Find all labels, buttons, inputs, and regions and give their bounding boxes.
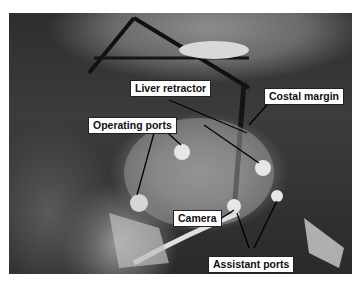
photo-scene <box>9 13 352 274</box>
label-costal-margin: Costal margin <box>264 88 344 105</box>
label-liver-retractor: Liver retractor <box>130 80 211 97</box>
label-camera: Camera <box>173 210 222 227</box>
label-operating-ports: Operating ports <box>88 117 177 134</box>
label-assistant-ports: Assistant ports <box>208 256 294 273</box>
surgical-photo <box>9 13 352 274</box>
